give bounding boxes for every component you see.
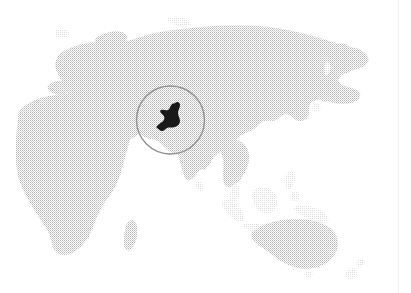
locator-map-figure: World locator map with Pakistan highligh… — [0, 0, 411, 293]
page-edge-line — [398, 0, 399, 293]
world-map-svg — [0, 0, 411, 293]
